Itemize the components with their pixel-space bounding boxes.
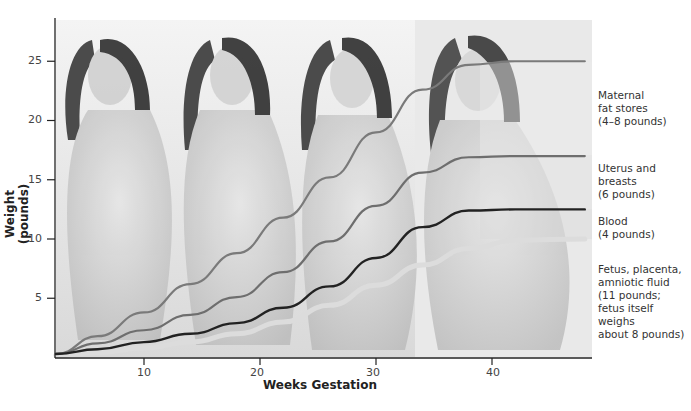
y-tick-label-5: 5	[14, 291, 42, 304]
y-tick-label-10: 10	[14, 232, 42, 245]
x-tick-label-40: 40	[478, 366, 508, 379]
legend-fetus-placenta-fluid: Fetus, placenta, amniotic fluid (11 poun…	[598, 263, 690, 341]
y-tick-label-20: 20	[14, 113, 42, 126]
y-tick-label-15: 15	[14, 173, 42, 186]
plot-area	[0, 0, 691, 411]
legend-maternal-fat-stores: Maternal fat stores (4–8 pounds)	[598, 89, 690, 128]
y-ticks	[47, 61, 55, 298]
x-ticks	[144, 358, 492, 365]
legend-blood: Blood (4 pounds)	[598, 215, 690, 241]
legend-uterus-breasts: Uterus and breasts (6 pounds)	[598, 162, 690, 201]
x-tick-label-30: 30	[358, 366, 388, 379]
weight-gain-chart: Weight (pounds) Weeks Gestation 25 20 15…	[0, 0, 691, 411]
x-tick-label-10: 10	[129, 366, 159, 379]
y-tick-label-25: 25	[14, 54, 42, 67]
x-tick-label-20: 20	[242, 366, 272, 379]
x-axis-label: Weeks Gestation	[240, 378, 400, 392]
